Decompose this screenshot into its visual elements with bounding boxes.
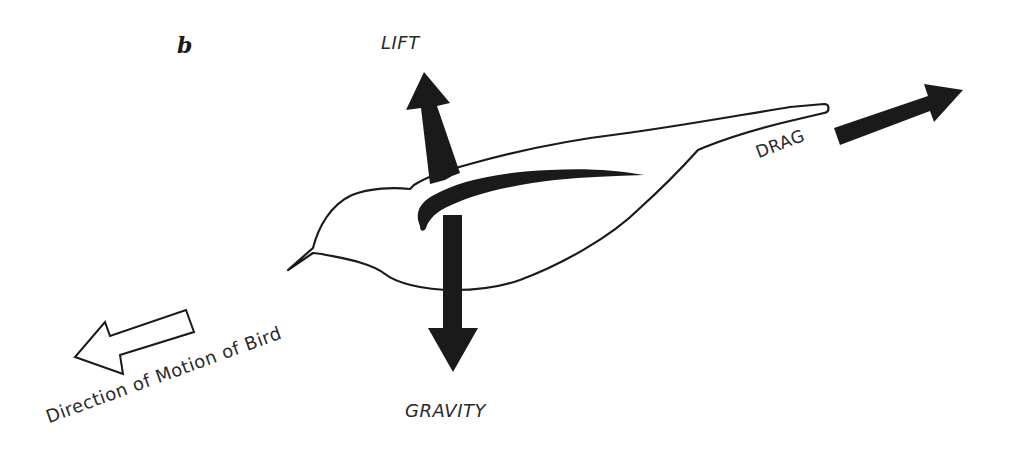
lift-label: LIFT: [381, 32, 420, 53]
bird-outline: [288, 104, 829, 290]
lift-arrow: [406, 72, 460, 184]
gravity-label: GRAVITY: [405, 400, 486, 421]
gravity-arrow: [428, 215, 478, 372]
panel-letter: b: [177, 32, 192, 58]
drag-arrow: [834, 84, 963, 145]
